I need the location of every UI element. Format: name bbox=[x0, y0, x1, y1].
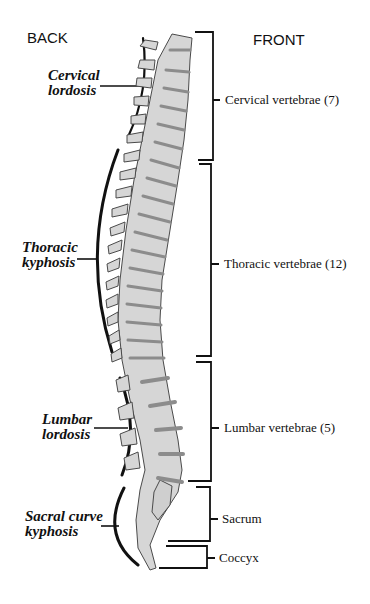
lumbar-bracket bbox=[188, 362, 219, 481]
coccyx-label: Coccyx bbox=[219, 550, 259, 566]
lumbar-lordosis-label: Lumbar lordosis bbox=[42, 412, 92, 442]
cervical-lordosis-label: Cervical lordosis bbox=[48, 68, 100, 98]
cervical-lordosis-line2: lordosis bbox=[48, 83, 100, 98]
spine-diagram: BACK FRONT Cervical lordosis Thoracic ky… bbox=[0, 0, 370, 604]
cervical-bracket bbox=[195, 32, 220, 160]
spine-vertebrae bbox=[106, 34, 192, 570]
sacral-kyphosis-line2: kyphosis bbox=[25, 524, 103, 539]
front-label: FRONT bbox=[253, 31, 305, 48]
thoracic-kyphosis-line1: Thoracic bbox=[22, 240, 78, 255]
lumbar-lordosis-line2: lordosis bbox=[42, 427, 92, 442]
back-label: BACK bbox=[27, 29, 68, 46]
sacral-kyphosis-label: Sacral curve kyphosis bbox=[25, 509, 103, 539]
thoracic-bracket bbox=[196, 164, 219, 356]
sacrum-label: Sacrum bbox=[222, 511, 262, 527]
cervical-vertebrae-label: Cervical vertebrae (7) bbox=[225, 92, 339, 108]
coccyx-bracket bbox=[159, 546, 215, 568]
lumbar-vertebrae-label: Lumbar vertebrae (5) bbox=[224, 420, 335, 436]
lumbar-lordosis-line1: Lumbar bbox=[42, 412, 92, 427]
cervical-lordosis-line1: Cervical bbox=[48, 68, 100, 83]
sacral-kyphosis-line1: Sacral curve bbox=[25, 509, 103, 524]
thoracic-kyphosis-label: Thoracic kyphosis bbox=[22, 240, 78, 270]
thoracic-vertebrae-label: Thoracic vertebrae (12) bbox=[224, 256, 347, 272]
thoracic-kyphosis-line2: kyphosis bbox=[22, 255, 78, 270]
